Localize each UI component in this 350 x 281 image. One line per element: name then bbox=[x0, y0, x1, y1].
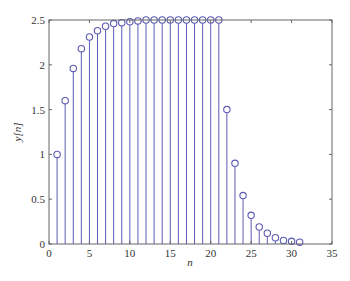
x-tick-label: 15 bbox=[165, 247, 177, 259]
stem-series bbox=[54, 17, 303, 246]
stem-marker bbox=[224, 106, 230, 112]
x-tick-label: 10 bbox=[124, 247, 136, 259]
stem-marker bbox=[70, 65, 76, 71]
y-tick-label: 2.5 bbox=[31, 14, 45, 26]
stem-marker bbox=[248, 212, 254, 218]
y-tick-label: 0 bbox=[40, 238, 46, 250]
stem-marker bbox=[280, 237, 286, 243]
y-axis-ticks: 00.511.522.5 bbox=[31, 14, 332, 250]
stem-marker bbox=[94, 28, 100, 34]
stem-marker bbox=[102, 23, 108, 29]
y-axis-label: y[n] bbox=[11, 123, 23, 143]
x-axis-ticks: 05101520253035 bbox=[46, 20, 338, 259]
x-tick-label: 0 bbox=[46, 247, 52, 259]
stem-marker bbox=[264, 230, 270, 236]
stem-marker bbox=[240, 192, 246, 198]
x-tick-label: 25 bbox=[246, 247, 258, 259]
x-axis-label: n bbox=[187, 256, 193, 268]
stem-marker bbox=[62, 97, 68, 103]
stem-marker bbox=[110, 20, 116, 26]
stem-marker bbox=[256, 224, 262, 230]
x-tick-label: 30 bbox=[286, 247, 298, 259]
x-tick-label: 35 bbox=[327, 247, 339, 259]
y-tick-label: 0.5 bbox=[31, 193, 45, 205]
stem-plot: 05101520253035 00.511.522.5 n y[n] bbox=[0, 0, 350, 281]
stem-marker bbox=[54, 151, 60, 157]
stem-marker bbox=[135, 18, 141, 24]
stem-marker bbox=[86, 34, 92, 40]
stem-marker bbox=[232, 160, 238, 166]
stem-marker bbox=[78, 45, 84, 51]
stem-marker bbox=[272, 235, 278, 241]
axes-frame bbox=[49, 20, 332, 244]
x-tick-label: 5 bbox=[87, 247, 93, 259]
y-tick-label: 1 bbox=[40, 148, 46, 160]
y-tick-label: 2 bbox=[40, 59, 46, 71]
x-tick-label: 20 bbox=[205, 247, 217, 259]
y-tick-label: 1.5 bbox=[31, 104, 45, 116]
